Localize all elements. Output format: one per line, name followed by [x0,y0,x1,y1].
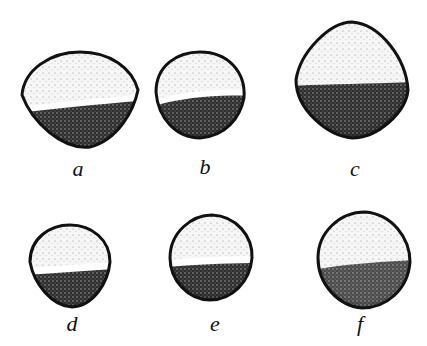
seed-a [0,40,160,160]
label-c: c [350,158,360,180]
label-f: f [357,313,363,335]
label-e: e [210,313,220,335]
seed-f [312,205,417,315]
label-a: a [73,158,84,180]
seed-e [165,210,260,305]
label-d: d [67,313,78,335]
seed-b [150,45,250,145]
seed-c [290,15,415,145]
seed-illustrations [0,0,427,346]
label-b: b [200,156,211,178]
seed-d [25,220,115,315]
